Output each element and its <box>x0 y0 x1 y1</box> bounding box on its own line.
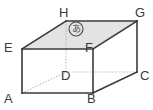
rectangular-prism-figure: A B C D E F G H あ <box>0 0 153 110</box>
vertex-label-G: G <box>135 6 145 19</box>
vertex-label-B: B <box>87 92 96 105</box>
vertex-label-E: E <box>4 41 13 54</box>
vertex-label-D: D <box>61 69 70 82</box>
vertex-label-A: A <box>4 92 13 105</box>
edge-A-D-hidden <box>22 72 66 93</box>
edge-C-B <box>93 72 137 93</box>
vertex-label-F: F <box>85 41 93 54</box>
vertex-label-H: H <box>59 6 68 19</box>
prism-drawing <box>0 0 153 110</box>
face-marker-label: あ <box>71 25 81 34</box>
vertex-label-C: C <box>140 69 149 82</box>
